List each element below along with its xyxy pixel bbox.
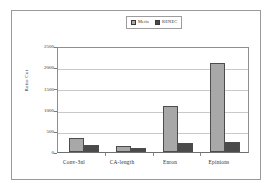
bar-renec-epinions [225, 142, 240, 152]
legend-label-renec: RENEC [162, 20, 177, 24]
plot-area [57, 47, 249, 153]
y-axis-title: Ratio Cut [24, 51, 29, 111]
y-tick-label-1500: 1500 [44, 87, 54, 92]
legend-swatch-metis [131, 20, 136, 25]
chart-legend: Metis RENEC [126, 16, 182, 29]
chart-figure: Metis RENEC Ratio Cut 2500 2000 1500 100… [0, 0, 273, 191]
y-tick-label-2000: 2000 [44, 65, 54, 70]
bar-renec-enron [178, 143, 193, 152]
bar-metis-conv3nl [69, 138, 84, 152]
x-tick-label-conv3nl: Conv-3nl [56, 160, 92, 165]
x-tick-mark-2 [153, 153, 154, 156]
x-tick-mark-3 [200, 153, 201, 156]
legend-entry-renec: RENEC [155, 20, 177, 25]
x-tick-label-enron: Enron [152, 160, 188, 165]
legend-swatch-renec [155, 20, 160, 25]
bar-renec-conv3nl [84, 145, 99, 152]
y-tick-mark-0 [54, 153, 57, 154]
y-tick-label-1000: 1000 [44, 108, 54, 113]
y-tick-label-500: 500 [47, 129, 55, 134]
legend-label-metis: Metis [138, 20, 149, 24]
y-tick-label-2500: 2500 [44, 44, 54, 49]
bar-metis-enron [163, 106, 178, 152]
x-tick-label-epinions: Epinions [199, 160, 239, 165]
bar-metis-calength [116, 146, 131, 152]
x-tick-mark-1 [105, 153, 106, 156]
legend-entry-metis: Metis [131, 20, 149, 25]
x-tick-label-calength: CA-length [104, 160, 140, 165]
bar-renec-calength [131, 148, 146, 152]
bar-metis-epinions [210, 63, 225, 152]
y-axis-tick-labels: 2500 2000 1500 1000 500 0 [31, 0, 54, 191]
